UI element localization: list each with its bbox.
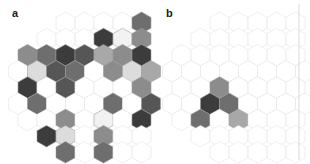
panel-label-a: a <box>12 7 19 19</box>
hex-row <box>56 142 151 164</box>
honeycomb-figure: a b <box>0 0 310 164</box>
panel-label-b: b <box>166 7 173 19</box>
hex-row <box>210 142 305 164</box>
